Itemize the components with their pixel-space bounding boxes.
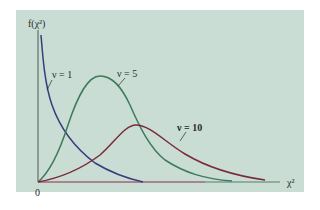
curve-nu-5	[38, 76, 232, 182]
chi-square-plot: f(χ²) χ² 0 ν = 1 ν = 5 ν = 10	[0, 0, 320, 210]
label-nu-10: ν = 10	[176, 122, 202, 133]
curve-nu-10	[38, 125, 265, 182]
label-nu-5: ν = 5	[117, 68, 137, 79]
leader-nu-10	[180, 132, 186, 141]
leader-nu-1	[47, 80, 52, 90]
x-axis-label: χ²	[286, 177, 294, 188]
origin-label: 0	[35, 187, 40, 198]
y-axis-label: f(χ²)	[28, 18, 45, 30]
label-nu-1: ν = 1	[52, 69, 72, 80]
leader-nu-5	[118, 78, 125, 86]
